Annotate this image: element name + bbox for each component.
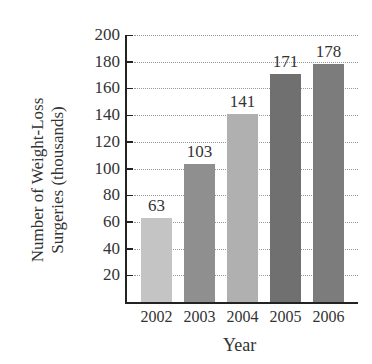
y-axis-title-line-1: Number of Weight-Loss [28, 60, 48, 300]
bar-2006 [313, 64, 344, 302]
bar-2002 [141, 218, 172, 302]
value-label: 178 [304, 42, 354, 62]
y-tick-label: 80 [80, 186, 120, 203]
y-tick-label: 100 [80, 160, 120, 177]
x-tick-label: 2003 [178, 308, 222, 326]
y-axis-title: Number of Weight-Loss Surgeries (thousan… [28, 60, 88, 300]
y-tick-label: 20 [80, 266, 120, 283]
y-tick-label: 40 [80, 240, 120, 257]
x-tick-label: 2005 [264, 308, 308, 326]
bar-2005 [270, 74, 301, 302]
y-tick-label: 60 [80, 213, 120, 230]
y-tick-label: 120 [80, 133, 120, 150]
y-axis-title-line-2: Surgeries (thousands) [48, 60, 68, 300]
y-tick-label: 180 [80, 53, 120, 70]
x-axis-line [125, 302, 358, 304]
value-label: 103 [175, 142, 225, 162]
y-tick-label: 140 [80, 106, 120, 123]
bar-2004 [227, 114, 258, 302]
y-tick-label: 200 [80, 26, 120, 43]
gridline [134, 35, 358, 36]
x-tick-label: 2002 [135, 308, 179, 326]
y-axis-line [125, 35, 127, 302]
x-tick-label: 2004 [221, 308, 265, 326]
value-label: 63 [132, 196, 182, 216]
value-label: 141 [218, 92, 268, 112]
y-tick-label: 160 [80, 79, 120, 96]
x-axis-title: Year [223, 335, 256, 356]
x-tick-label: 2006 [307, 308, 351, 326]
bar-2003 [184, 164, 215, 302]
